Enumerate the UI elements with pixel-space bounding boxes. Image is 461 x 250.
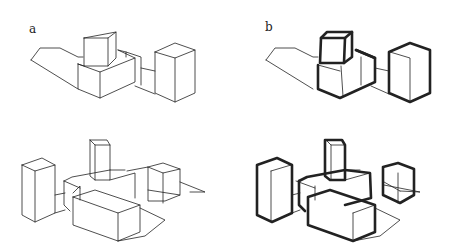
thin-edge-line xyxy=(341,66,343,96)
thin-edge-line xyxy=(84,32,116,38)
panel-b-bottom-drawing xyxy=(257,140,420,241)
thin-edge-line xyxy=(266,48,318,60)
bold-contour-line xyxy=(383,163,414,203)
thin-edge-line xyxy=(353,208,400,241)
thin-edge-line xyxy=(64,181,80,188)
thin-edge-line xyxy=(135,86,155,94)
thin-edge-line xyxy=(180,182,205,192)
thin-edge-line xyxy=(371,86,389,94)
thin-edge-line xyxy=(155,50,195,58)
thin-edge-line xyxy=(78,58,135,72)
panel-b-top-drawing xyxy=(266,32,430,102)
thin-edge-line xyxy=(375,68,389,71)
thin-edge-line xyxy=(64,170,110,181)
thin-edge-line xyxy=(345,173,370,180)
thin-edge-line xyxy=(73,197,140,213)
bold-contour-line xyxy=(344,38,345,63)
thin-edge-line xyxy=(73,190,140,241)
bold-contour-line xyxy=(308,190,375,241)
bold-contour-line xyxy=(356,50,375,58)
thin-edge-line xyxy=(55,193,65,195)
bold-contour-line xyxy=(257,158,292,222)
thin-edge-line xyxy=(64,181,70,211)
bold-contour-line xyxy=(299,181,305,211)
thin-edge-line xyxy=(118,208,165,241)
thin-edge-line xyxy=(353,205,375,213)
block-drawings xyxy=(0,0,461,250)
thin-edge-line xyxy=(148,163,180,195)
thin-edge-line xyxy=(318,65,340,71)
panel-a-top-drawing xyxy=(31,32,195,102)
thin-edge-line xyxy=(148,167,180,173)
thin-edge-line xyxy=(266,60,313,89)
thin-edge-line xyxy=(31,48,83,60)
panel-a-bottom-drawing xyxy=(22,140,205,241)
thin-edge-line xyxy=(78,50,135,98)
thin-edge-line xyxy=(141,68,155,71)
thin-edge-line xyxy=(31,60,78,89)
thin-edge-line xyxy=(271,165,291,171)
bold-contour-line xyxy=(389,43,430,102)
bold-contour-line xyxy=(318,50,375,98)
thin-edge-line xyxy=(55,210,65,213)
thin-edge-line xyxy=(22,165,55,171)
thin-edge-line xyxy=(90,140,110,180)
thin-edge-line xyxy=(110,173,135,198)
